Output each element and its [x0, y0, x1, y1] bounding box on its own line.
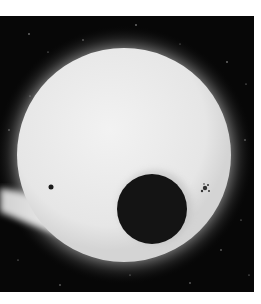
transiting-body — [117, 174, 187, 244]
sunspot — [49, 185, 54, 190]
astronomy-photo — [0, 16, 254, 292]
